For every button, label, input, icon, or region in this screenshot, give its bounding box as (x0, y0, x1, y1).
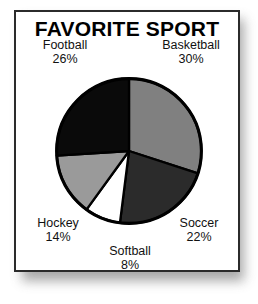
slice-label-hockey-value: 14% (20, 230, 96, 244)
slice-label-basketball-name: Basketball (148, 38, 234, 52)
pie-chart-svg (52, 74, 206, 228)
slice-label-softball-name: Softball (90, 244, 170, 258)
slice-label-soccer-name: Soccer (162, 216, 236, 230)
slice-label-softball: Softball 8% (90, 244, 170, 272)
slice-label-football: Football 26% (26, 38, 104, 66)
slice-label-softball-value: 8% (90, 258, 170, 272)
favorite-sport-chart-card: FAVORITE SPORT Football 26% Basketball 3… (14, 10, 240, 272)
slice-label-soccer-value: 22% (162, 230, 236, 244)
slice-label-basketball-value: 30% (148, 52, 234, 66)
slice-label-football-value: 26% (26, 52, 104, 66)
slice-label-soccer: Soccer 22% (162, 216, 236, 244)
slice-label-hockey: Hockey 14% (20, 216, 96, 244)
slice-label-football-name: Football (26, 38, 104, 52)
slice-label-hockey-name: Hockey (20, 216, 96, 230)
pie-slice-football (57, 79, 129, 156)
slice-label-basketball: Basketball 30% (148, 38, 234, 66)
